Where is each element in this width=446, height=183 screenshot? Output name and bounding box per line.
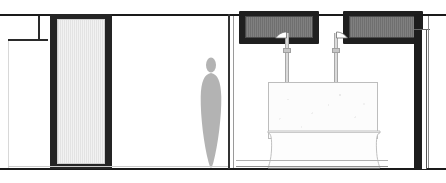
right-outer-edge — [428, 16, 429, 168]
glazed-door-panel — [57, 19, 105, 164]
tub-skirt-line — [236, 166, 388, 167]
room-partition-wall — [228, 14, 230, 169]
tub-plinth-line — [236, 160, 388, 161]
left-head-stub — [38, 14, 50, 16]
right-wall-reveal — [421, 30, 427, 169]
partition-inner-face — [233, 16, 234, 168]
shower-collar-right — [332, 48, 340, 53]
left-head-jamb — [38, 14, 40, 40]
left-soffit-line — [8, 39, 48, 41]
right-end-wall — [414, 14, 421, 169]
floor-finish-line — [8, 166, 228, 167]
bathtub-base — [264, 130, 384, 169]
shower-head-right-icon — [336, 31, 348, 42]
human-scale-figure — [198, 57, 224, 168]
left-exterior-wall — [8, 40, 9, 168]
shower-head-left-icon — [275, 31, 287, 42]
wall-niche-right-fill — [349, 16, 417, 38]
shower-collar-left — [283, 48, 291, 53]
elevation-drawing-canvas — [0, 0, 446, 183]
